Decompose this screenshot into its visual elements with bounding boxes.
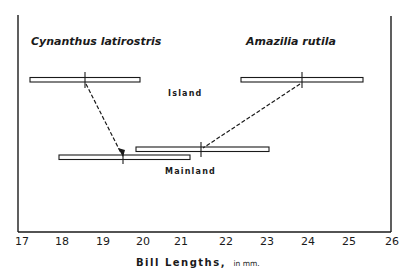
group-label-island: Island <box>168 89 203 98</box>
x-tick-label: 23 <box>260 235 274 248</box>
x-tick-labels: 17 18 19 20 21 22 23 24 25 26 <box>15 235 399 248</box>
x-tick-label: 20 <box>136 235 150 248</box>
x-tick-label: 26 <box>385 235 399 248</box>
bar-amazilia-mainland <box>136 147 269 152</box>
species-label-cynanthus: Cynanthus latirostris <box>31 35 162 48</box>
x-tick-label: 22 <box>219 235 233 248</box>
x-axis-title: Bill Lengths, in mm. <box>136 252 260 269</box>
bill-length-chart: Cynanthus latirostris Amazilia rutila Is… <box>0 0 410 277</box>
x-tick-label: 19 <box>96 235 110 248</box>
x-tick-label: 17 <box>15 235 29 248</box>
x-tick-label: 25 <box>342 235 356 248</box>
species-label-amazilia: Amazilia rutila <box>245 35 336 48</box>
x-tick-label: 24 <box>301 235 315 248</box>
range-bars <box>30 72 363 164</box>
x-tick-label: 18 <box>55 235 69 248</box>
x-axis-title-main: Bill Lengths, <box>136 257 226 268</box>
arrow-cynanthus-shift <box>86 84 121 153</box>
bar-cynanthus-mainland <box>59 155 190 160</box>
arrow-amazilia-shift <box>203 84 300 148</box>
x-axis-title-unit: in mm. <box>233 259 259 268</box>
x-tick-label: 21 <box>174 235 188 248</box>
group-label-mainland: Mainland <box>165 167 216 176</box>
